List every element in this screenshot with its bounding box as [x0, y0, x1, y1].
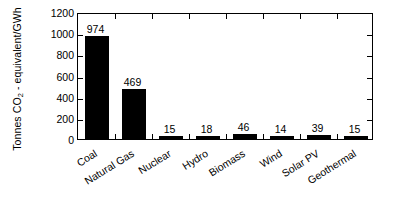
x-axis-tick-mark — [189, 14, 190, 19]
bar — [159, 136, 183, 139]
y-axis-tick-mark — [78, 56, 83, 57]
x-axis-tick-mark — [152, 14, 153, 19]
bar-value-label: 18 — [201, 124, 213, 135]
y-axis-tick-mark — [78, 99, 83, 100]
x-axis-tick-mark — [226, 134, 227, 139]
y-axis-tick-label: 400 — [14, 92, 74, 103]
x-axis-tick-mark — [115, 134, 116, 139]
x-axis-tick-mark — [152, 134, 153, 139]
y-axis-tick-mark — [367, 78, 372, 79]
bar-value-label: 15 — [164, 124, 176, 135]
bar-value-label: 39 — [312, 123, 324, 134]
bar-value-label: 46 — [238, 122, 250, 133]
x-axis-tick-mark — [115, 14, 116, 19]
y-axis-tick-label: 800 — [14, 50, 74, 61]
bar — [85, 36, 109, 139]
y-axis-tick-mark — [78, 35, 83, 36]
x-axis-tick-mark — [337, 14, 338, 19]
bar-value-label: 14 — [275, 124, 287, 135]
bar — [344, 136, 368, 139]
x-axis-category-label-text: Wind — [257, 148, 283, 170]
plot-area — [77, 13, 373, 140]
bar — [270, 136, 294, 139]
bar — [196, 136, 220, 139]
x-axis-tick-mark — [263, 134, 264, 139]
y-axis-tick-label: 1200 — [14, 8, 74, 19]
x-axis-tick-mark — [300, 14, 301, 19]
y-axis-tick-mark — [367, 99, 372, 100]
bar-value-label: 974 — [87, 24, 105, 35]
x-axis-tick-mark — [226, 14, 227, 19]
x-axis-tick-mark — [300, 134, 301, 139]
x-axis-tick-mark — [337, 134, 338, 139]
bar — [233, 134, 257, 139]
y-axis-tick-label: 1000 — [14, 29, 74, 40]
bar-value-label: 15 — [349, 124, 361, 135]
y-axis-tick-mark — [367, 56, 372, 57]
x-axis-tick-mark — [189, 134, 190, 139]
y-axis-tick-label: 0 — [14, 135, 74, 146]
bar — [307, 135, 331, 139]
bar — [122, 89, 146, 139]
bar-chart-figure: Tonnes CO2 - equivalent/GWh 020040060080… — [0, 0, 395, 206]
y-axis-tick-mark — [78, 120, 83, 121]
x-axis-tick-mark — [263, 14, 264, 19]
y-axis-tick-mark — [367, 35, 372, 36]
y-axis-tick-label: 600 — [14, 71, 74, 82]
x-axis-category-label-text: Hydro — [180, 148, 209, 172]
y-axis-tick-mark — [367, 120, 372, 121]
x-axis-category-label-text: Coal — [74, 148, 98, 168]
y-axis-tick-label: 200 — [14, 114, 74, 125]
y-axis-tick-mark — [78, 78, 83, 79]
bar-value-label: 469 — [124, 77, 142, 88]
